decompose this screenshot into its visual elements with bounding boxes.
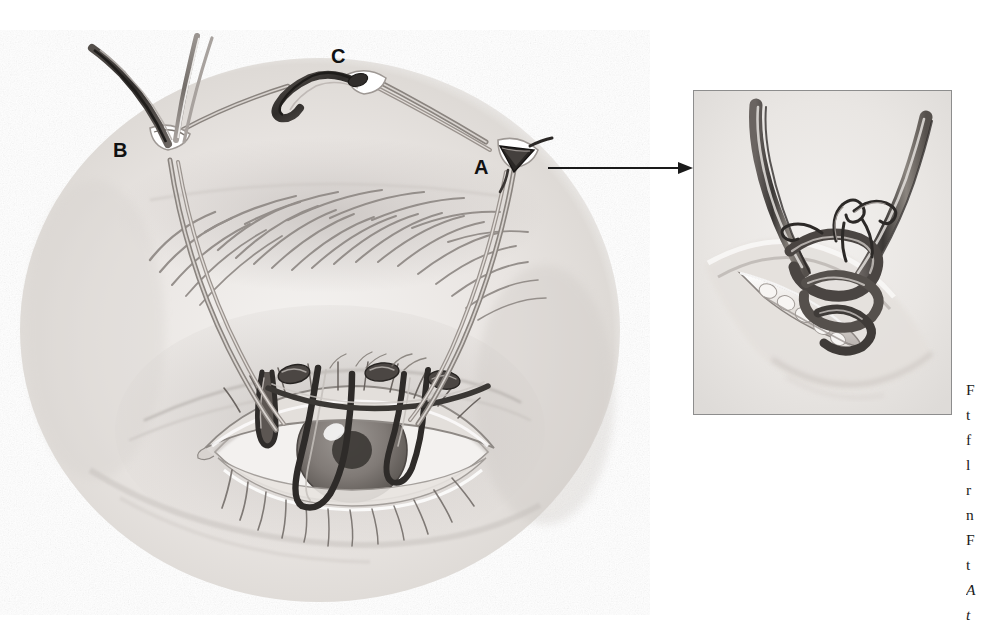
arrow-a-to-inset (540, 152, 695, 184)
face-rendering (20, 58, 620, 602)
caption-line: f (966, 427, 986, 452)
caption-line: r (966, 477, 986, 502)
caption-line: t (966, 402, 986, 427)
figure-label-b: B (113, 140, 128, 160)
caption-line: l (966, 452, 986, 477)
figure-label-c: C (331, 46, 346, 66)
caption-line: F (966, 377, 986, 402)
detail-inset (693, 90, 952, 415)
caption-line: F (966, 527, 986, 552)
figure-label-a: A (474, 157, 489, 177)
main-illustration (0, 0, 700, 615)
caption-line: A (966, 577, 986, 602)
figure-caption: F t f l r n F t A t (966, 377, 986, 624)
caption-line: t (966, 552, 986, 577)
caption-line: t (966, 602, 986, 624)
caption-line: n (966, 502, 986, 527)
